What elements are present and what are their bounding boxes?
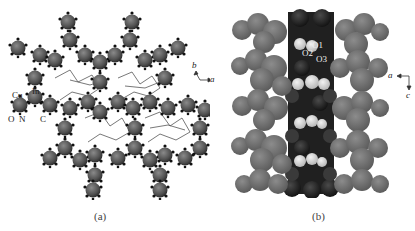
atom-label-c: C [40,114,46,124]
axis-indicator-b [395,72,415,96]
panel-a-framework: Cu In O N C b a [0,0,210,200]
axis-label-a: a [210,74,215,84]
atom-label-o1: O1 [312,40,323,50]
axis-label-b: b [192,60,197,70]
atom-label-o2: O2 [302,48,313,58]
atom-label-o3: O3 [316,54,327,64]
caption-a: (a) [94,210,106,222]
space-filling-structure-image [230,8,390,198]
framework-structure-image [0,0,210,200]
caption-b: (b) [312,210,325,222]
atom-label-in: In [32,86,40,96]
axis-label-a-b: a [388,70,393,80]
panel-b-space-filling: O1 O2 O3 [230,8,390,198]
atom-label-cu: Cu [12,90,23,100]
axis-label-c: c [406,90,410,100]
axis-indicator-a [194,71,210,82]
atom-label-n: N [19,114,26,124]
atom-label-o: O [8,114,15,124]
